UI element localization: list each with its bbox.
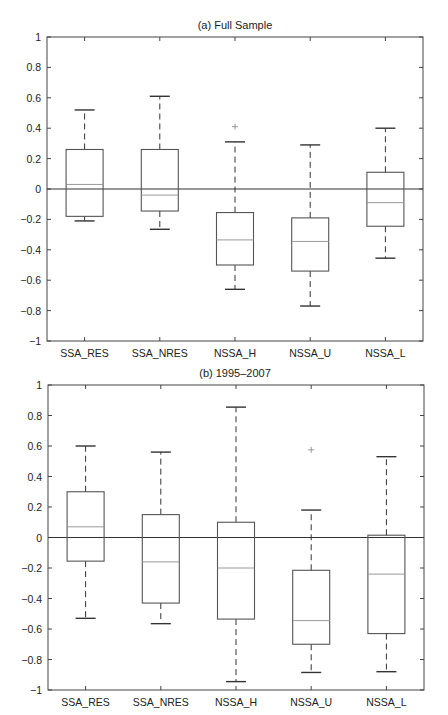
x-category-label: SSA_RES <box>60 347 108 359</box>
y-tick-label: 0.2 <box>27 501 42 513</box>
x-category-label: SSA_NRES <box>132 347 188 359</box>
y-tick-label: −0.6 <box>21 623 42 635</box>
y-tick-label: −0.4 <box>21 593 42 605</box>
box-nssa-l <box>367 128 404 258</box>
iqr-box <box>367 172 404 226</box>
iqr-box <box>293 570 330 644</box>
iqr-box <box>217 213 254 265</box>
box-ssa-res <box>67 446 104 618</box>
iqr-box <box>141 149 178 211</box>
x-category-label: NSSA_H <box>215 696 257 708</box>
x-category-label: SSA_RES <box>61 696 109 708</box>
y-tick-label: 0.8 <box>26 61 41 73</box>
iqr-box <box>292 218 329 271</box>
y-tick-label: 0.6 <box>27 440 42 452</box>
figure: (a) Full Sample −1−0.8−0.6−0.4−0.200.20.… <box>0 0 448 715</box>
x-category-label: NSSA_U <box>290 696 332 708</box>
x-category-label: NSSA_L <box>365 347 405 359</box>
panel-title: (b) 1995–2007 <box>199 367 271 379</box>
panel-1995-2007: (b) 1995–2007 −1−0.8−0.6−0.4−0.200.20.40… <box>21 367 424 708</box>
plot-area: −1−0.8−0.6−0.4−0.200.20.40.60.81SSA_RESS… <box>20 31 423 359</box>
y-tick-label: −0.8 <box>21 654 42 666</box>
y-tick-label: 0.4 <box>26 122 41 134</box>
x-category-label: NSSA_U <box>289 347 331 359</box>
iqr-box <box>218 522 255 619</box>
box-nssa-h <box>217 124 254 290</box>
box-nssa-l <box>368 457 405 672</box>
x-category-label: NSSA_L <box>366 696 406 708</box>
y-tick-label: −1 <box>29 335 41 347</box>
y-tick-label: 0.6 <box>26 92 41 104</box>
box-ssa-nres <box>141 96 178 229</box>
boxplot-figure: (a) Full Sample −1−0.8−0.6−0.4−0.200.20.… <box>0 0 448 715</box>
box-nssa-u <box>292 145 329 306</box>
box-ssa-res <box>66 110 103 221</box>
y-tick-label: 0 <box>36 532 42 544</box>
plot-area: −1−0.8−0.6−0.4−0.200.20.40.60.81SSA_RESS… <box>21 379 424 708</box>
y-tick-label: −0.8 <box>20 305 41 317</box>
box-nssa-h <box>218 407 255 682</box>
iqr-box <box>142 515 179 603</box>
y-tick-label: 0 <box>35 183 41 195</box>
x-category-label: SSA_NRES <box>133 696 189 708</box>
y-tick-label: −1 <box>30 684 42 696</box>
y-tick-label: 1 <box>35 31 41 43</box>
y-tick-label: −0.2 <box>21 562 42 574</box>
y-tick-label: −0.2 <box>20 213 41 225</box>
panel-full-sample: (a) Full Sample −1−0.8−0.6−0.4−0.200.20.… <box>20 19 423 359</box>
y-tick-label: −0.4 <box>20 244 41 256</box>
y-tick-label: 1 <box>36 379 42 391</box>
panel-title: (a) Full Sample <box>198 19 273 31</box>
iqr-box <box>368 535 405 633</box>
box-nssa-u <box>293 447 330 673</box>
iqr-box <box>66 149 103 216</box>
y-tick-label: 0.2 <box>26 153 41 165</box>
y-tick-label: 0.8 <box>27 410 42 422</box>
y-tick-label: −0.6 <box>20 274 41 286</box>
x-category-label: NSSA_H <box>214 347 256 359</box>
y-tick-label: 0.4 <box>27 471 42 483</box>
